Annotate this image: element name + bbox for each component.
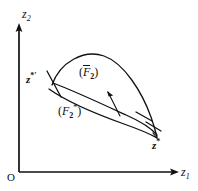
x-axis-label: z1 xyxy=(181,166,190,181)
figure-canvas xyxy=(0,0,198,191)
y-axis-label: z2 xyxy=(22,8,31,23)
f-star-2-close-paren: ) xyxy=(77,104,81,118)
direction-arrow xyxy=(107,91,120,116)
y-axis xyxy=(16,23,23,172)
origin-label: O xyxy=(7,172,15,183)
figure-container: z2 z1 O z*' z* (F2) (F2*) xyxy=(0,0,198,191)
y-axis-label-subscript: 2 xyxy=(27,14,31,23)
region-label-f-star-2: (F2*) xyxy=(58,104,81,120)
f-bar-2-close-paren: ) xyxy=(94,65,98,79)
region-label-f-bar-2: (F2) xyxy=(79,66,98,81)
z-star-label: z* xyxy=(152,138,160,151)
curve-upper-boundary xyxy=(52,54,157,137)
f-bar-2-symbol: F xyxy=(83,66,90,78)
direction-arrow-head xyxy=(107,91,113,97)
z-star-prime-superscript: *' xyxy=(30,71,36,80)
x-axis xyxy=(19,169,179,176)
x-axis-label-subscript: 1 xyxy=(186,172,190,181)
z-star-superscript: * xyxy=(156,137,160,146)
z-star-prime-label: z*' xyxy=(26,72,37,85)
f-star-2-subscript: 2 xyxy=(69,111,73,120)
